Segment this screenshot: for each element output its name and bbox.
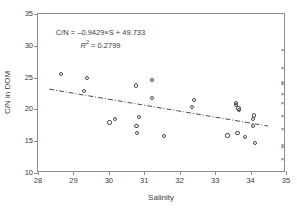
data-point-circle bbox=[150, 78, 154, 82]
r-squared-value: = 0.2799 bbox=[91, 40, 120, 49]
y-tick-label: 10 bbox=[25, 169, 33, 177]
x-tick-mark bbox=[109, 171, 110, 175]
scatter-plot-figure: C/N in DOM 101520253035 2829303132333435… bbox=[0, 0, 297, 214]
x-tick-mark bbox=[144, 171, 145, 175]
x-tick-mark bbox=[73, 171, 74, 175]
data-point-circle bbox=[237, 108, 241, 112]
data-point-cross: × bbox=[280, 101, 285, 106]
y-tick-label: 20 bbox=[25, 106, 33, 114]
x-tick-label: 35 bbox=[282, 177, 290, 185]
data-point-cross: × bbox=[280, 48, 285, 53]
x-tick-mark bbox=[180, 171, 181, 175]
data-point-cross: × bbox=[280, 157, 285, 162]
data-point-cross: × bbox=[280, 92, 285, 97]
x-tick-mark bbox=[251, 171, 252, 175]
x-tick-label: 28 bbox=[34, 177, 42, 185]
y-tick-label: 30 bbox=[25, 42, 33, 50]
data-point-circle bbox=[190, 105, 194, 109]
data-point-circle bbox=[107, 120, 111, 124]
data-point-circle bbox=[252, 113, 256, 117]
r-squared-exponent: 2 bbox=[86, 39, 89, 45]
y-tick-label: 35 bbox=[25, 10, 33, 18]
y-axis-title: C/N in DOM bbox=[2, 13, 14, 172]
x-tick-mark bbox=[38, 171, 39, 175]
data-point-circle bbox=[235, 131, 239, 135]
data-point-cross: × bbox=[280, 145, 285, 150]
data-point-circle bbox=[251, 124, 255, 128]
data-point-cross: × bbox=[280, 82, 285, 87]
x-axis-title-label: Salinity bbox=[148, 193, 174, 202]
data-point-circle bbox=[134, 124, 138, 128]
x-tick-mark bbox=[215, 171, 216, 175]
data-point-circle bbox=[135, 131, 139, 135]
y-axis-title-label: C/N in DOM bbox=[4, 71, 13, 114]
x-tick-mark bbox=[286, 171, 287, 175]
data-point-cross: × bbox=[280, 127, 285, 132]
r-squared-text: R2 = 0.2799 bbox=[48, 39, 153, 51]
regression-equation: C/N = –0.9429×S + 49.733 bbox=[48, 28, 153, 39]
x-tick-label: 31 bbox=[140, 177, 148, 185]
data-point-circle bbox=[162, 134, 166, 138]
x-tick-label: 32 bbox=[176, 177, 184, 185]
x-tick-label: 29 bbox=[69, 177, 77, 185]
x-tick-label: 33 bbox=[211, 177, 219, 185]
data-point-cross: × bbox=[280, 66, 285, 71]
data-point-circle bbox=[134, 83, 138, 87]
x-tick-label: 30 bbox=[105, 177, 113, 185]
data-point-circle bbox=[150, 96, 154, 100]
regression-annotation: C/N = –0.9429×S + 49.733 R2 = 0.2799 bbox=[48, 28, 153, 51]
x-tick-label: 34 bbox=[246, 177, 254, 185]
data-point-cross: × bbox=[280, 114, 285, 119]
y-tick-label: 15 bbox=[25, 137, 33, 145]
x-axis-title: Salinity bbox=[37, 193, 285, 202]
data-point-circle bbox=[225, 133, 229, 137]
y-tick-label: 25 bbox=[25, 74, 33, 82]
